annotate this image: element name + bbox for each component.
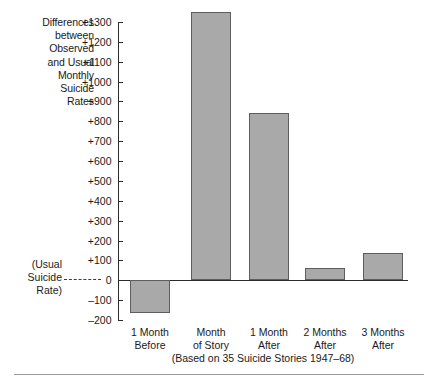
y-axis-tick: +600 <box>118 161 124 162</box>
y-axis-tick-label: +500 <box>88 175 112 187</box>
y-axis-title: Differences between Observed and Usual M… <box>6 16 94 108</box>
bar <box>191 12 231 280</box>
baseline-leader-line <box>64 279 101 280</box>
y-axis-tick: +1300 <box>118 22 124 23</box>
x-axis-label: 3 MonthsAfter <box>343 326 423 351</box>
y-axis-tick: +100 <box>118 260 124 261</box>
y-axis-tick-label: +1000 <box>82 76 112 88</box>
y-axis-title-line: and Usual <box>6 56 94 69</box>
y-axis-tick-label: +100 <box>88 254 112 266</box>
baseline-annotation: (Usual Suicide Rate) <box>4 258 62 298</box>
suicide-rate-bar-chart: Differences between Observed and Usual M… <box>0 0 435 383</box>
x-axis-label-line: After <box>343 339 423 352</box>
y-axis-tick: +1200 <box>118 42 124 43</box>
y-axis-tick-label: –100 <box>88 294 111 306</box>
y-axis-tick: +500 <box>118 181 124 182</box>
y-axis-tick-label: +300 <box>88 215 112 227</box>
y-axis-title-line: between <box>6 29 94 42</box>
y-axis-tick-label: +800 <box>88 115 112 127</box>
y-axis-title-line: Monthly <box>6 69 94 82</box>
y-axis-tick: +900 <box>118 101 124 102</box>
y-axis-tick-label: +1300 <box>82 16 112 28</box>
bar <box>130 280 170 313</box>
y-axis-tick: +1100 <box>118 62 124 63</box>
y-axis-tick-label: +1200 <box>82 36 112 48</box>
y-axis-tick: +400 <box>118 201 124 202</box>
y-axis-tick: +800 <box>118 121 124 122</box>
y-axis-title-line: Differences <box>6 16 94 29</box>
baseline-annotation-line: (Usual <box>4 258 62 271</box>
plot-area: +1300+1200+1100+1000+900+800+700+600+500… <box>118 22 408 320</box>
y-axis-tick: +1000 <box>118 82 124 83</box>
y-axis-tick-label: +1100 <box>83 56 112 68</box>
y-axis-tick: –100 <box>118 300 124 301</box>
y-axis-spine <box>118 22 119 320</box>
bar <box>305 268 345 280</box>
y-axis-tick: +300 <box>118 221 124 222</box>
y-axis-tick-label: +700 <box>88 135 112 147</box>
y-axis-tick-label: +900 <box>88 95 112 107</box>
y-axis-tick: 0 <box>118 280 124 281</box>
baseline-annotation-line: Rate) <box>4 284 62 297</box>
y-axis-title-line: Rates <box>6 95 94 108</box>
y-axis-title-line: Observed <box>6 42 94 55</box>
y-axis-tick-label: –200 <box>88 314 111 326</box>
bar <box>363 253 403 280</box>
y-axis-tick-label: +400 <box>88 195 112 207</box>
y-axis-tick-label: +200 <box>88 235 112 247</box>
y-axis-tick: –200 <box>118 320 124 321</box>
y-axis-tick: +700 <box>118 141 124 142</box>
bar <box>249 113 289 280</box>
source-note: (Based on 35 Suicide Stories 1947–68) <box>118 352 408 364</box>
y-axis-tick-label: +600 <box>88 155 112 167</box>
y-axis-title-line: Suicide <box>6 82 94 95</box>
y-axis-tick-label: 0 <box>106 274 112 286</box>
y-axis-tick: +200 <box>118 241 124 242</box>
x-axis-label-line: 3 Months <box>343 326 423 339</box>
bottom-divider <box>14 374 424 375</box>
baseline-annotation-line: Suicide <box>4 271 62 284</box>
